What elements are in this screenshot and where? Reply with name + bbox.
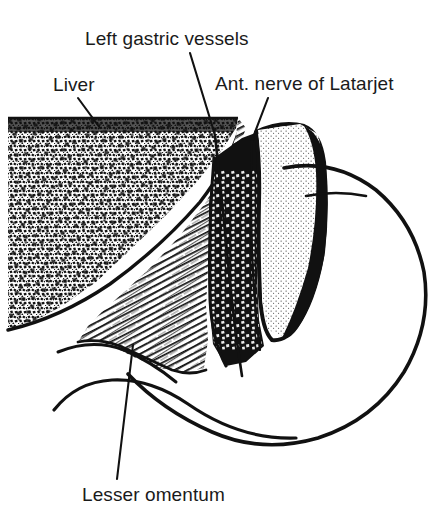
label-liver: Liver [53,74,95,95]
label-ant-nerve-of-latarjet: Ant. nerve of Latarjet [215,73,394,94]
anatomical-figure: Left gastric vessels Liver Ant. nerve of… [0,0,441,514]
label-lesser-omentum: Lesser omentum [82,484,225,505]
label-left-gastric-vessels: Left gastric vessels [85,28,249,49]
illustration-canvas: Left gastric vessels Liver Ant. nerve of… [0,0,441,514]
